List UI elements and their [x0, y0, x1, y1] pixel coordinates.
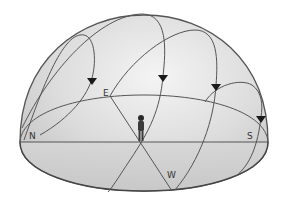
- label-west: W: [167, 170, 176, 180]
- label-south: S: [247, 131, 253, 141]
- label-north: N: [29, 131, 36, 141]
- celestial-dome-diagram: E N S W: [0, 0, 286, 201]
- label-east: E: [103, 88, 109, 98]
